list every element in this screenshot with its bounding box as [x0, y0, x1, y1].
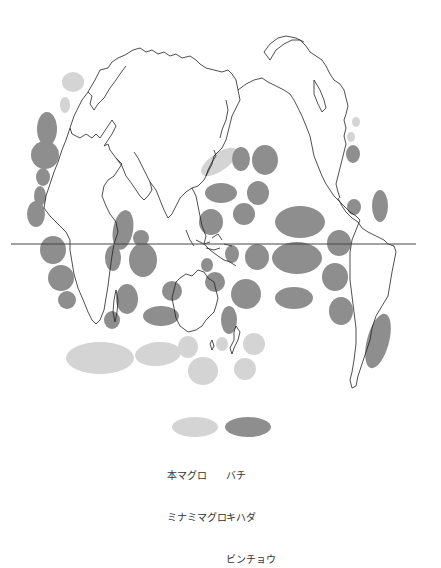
- eurasia-coast: [88, 48, 240, 164]
- bluefin-area: [352, 117, 360, 127]
- tropical-tuna-area: [360, 311, 396, 371]
- tropical-tuna-area: [199, 209, 223, 235]
- legend-swatch-bluefin: [172, 417, 218, 437]
- bluefin-area: [347, 132, 355, 142]
- bluefin-area: [66, 342, 134, 374]
- arabia-coast: [116, 152, 152, 200]
- hudson-bay: [314, 80, 326, 112]
- tuna-distribution-map: [0, 0, 441, 400]
- legend-label-binchou: ビンチョウ: [226, 553, 276, 567]
- coastline-outlines: [44, 36, 396, 388]
- tropical-tuna-area: [48, 265, 74, 291]
- tropical-tuna-area: [225, 245, 239, 263]
- tropical-tuna-area: [272, 242, 322, 274]
- tropical-tuna-area: [104, 311, 120, 329]
- tropical-tuna-area: [346, 145, 360, 163]
- tropical-tuna-area: [245, 244, 269, 270]
- bluefin-area: [216, 337, 228, 351]
- tropical-tuna-area: [327, 230, 351, 256]
- legend-label-bachi: バチ: [226, 469, 276, 483]
- kamchatka-coast: [220, 100, 228, 138]
- legend-label-kihada: キハダ: [226, 511, 276, 525]
- tropical-tuna-area: [201, 258, 213, 272]
- bluefin-area: [188, 357, 218, 385]
- tropical-tuna-area: [247, 181, 269, 205]
- bluefin-area: [134, 340, 182, 368]
- tropical-tuna-area: [205, 183, 237, 203]
- legend-label-bluefin: 本マグロ ミナミマグロ: [167, 441, 227, 553]
- tropical-tuna-area: [231, 279, 261, 309]
- bluefin-area: [62, 72, 84, 92]
- tropical-tuna-area: [31, 141, 59, 169]
- legend-label-honmaguro: 本マグロ: [167, 469, 227, 483]
- tropical-tuna-area: [372, 190, 388, 222]
- bigeye-yellowfin-albacore-areas: [27, 112, 396, 371]
- tropical-tuna-area: [27, 201, 45, 227]
- tropical-tuna-area: [129, 243, 157, 277]
- tasmania-coast: [210, 340, 214, 350]
- tropical-tuna-area: [275, 287, 313, 309]
- tropical-tuna-area: [252, 145, 278, 175]
- tropical-tuna-area: [58, 291, 76, 309]
- norway-coast: [88, 66, 126, 110]
- tropical-tuna-area: [233, 203, 255, 225]
- tropical-tuna-area: [329, 297, 353, 325]
- tropical-tuna-area: [116, 284, 138, 314]
- tropical-tuna-area: [275, 206, 325, 238]
- bluefin-area: [234, 358, 256, 380]
- europe-coast: [70, 92, 116, 146]
- bluefin-area: [243, 333, 265, 355]
- legend: 本マグロ ミナミマグロ バチ キハダ ビンチョウ: [0, 415, 441, 489]
- tropical-tuna-area: [232, 147, 250, 171]
- tropical-tuna-area: [40, 236, 66, 264]
- bluefin-area: [60, 97, 70, 113]
- india-coast: [150, 182, 192, 218]
- canada-arctic-coast: [270, 40, 348, 198]
- bluefin-area: [178, 336, 198, 358]
- tropical-tuna-area: [205, 272, 225, 292]
- legend-label-minamimaguro: ミナミマグロ: [167, 511, 227, 525]
- tropical-tuna-area: [37, 112, 57, 146]
- tropical-tuna-area: [322, 263, 348, 291]
- tropical-tuna-area: [143, 306, 179, 326]
- tropical-tuna-area: [36, 168, 50, 186]
- tropical-tuna-area: [347, 199, 361, 215]
- legend-label-other-tuna: バチ キハダ ビンチョウ: [226, 441, 276, 568]
- legend-swatch-bigeye-yellowfin-albacore: [225, 417, 271, 437]
